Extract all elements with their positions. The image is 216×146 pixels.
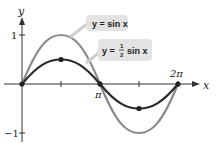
x-axis-label: x [203,79,210,92]
callout-half-suffix: sin x [127,46,148,56]
point-origin [19,81,24,86]
point-pi [97,81,102,86]
axes [4,17,200,142]
callout-sin-text: y = sin x [92,19,128,29]
point-min [136,106,141,111]
y-axis-label: y [17,5,25,18]
point-2pi [175,81,180,86]
callout-sin-x: y = sin x [70,15,128,37]
sine-graph: y x 1 −1 π 2π y = sin x y = 1 2 sin x [0,0,216,146]
y-axis-arrow-icon [19,17,25,25]
x-axis-arrow-icon [192,81,200,87]
y-tick-label-1: 1 [11,30,17,41]
callout-sin-leader [70,24,87,37]
x-tick-label-2pi: 2π [169,68,183,79]
callout-half-prefix: y = [102,46,115,56]
y-tick-label-neg1: −1 [4,128,19,139]
callout-half-sin-x: y = 1 2 sin x [86,39,152,63]
x-tick-label-pi: π [94,89,102,100]
point-max [58,57,63,62]
